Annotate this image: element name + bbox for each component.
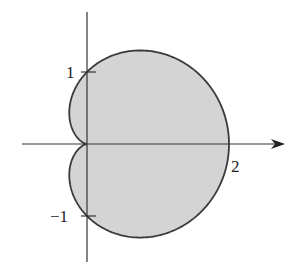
y-tick-label-neg1: −1 (50, 207, 68, 226)
y-tick-label-1: 1 (66, 63, 75, 82)
chart-canvas: 1 −1 2 (0, 0, 305, 266)
cardioid-figure: 1 −1 2 (0, 0, 305, 266)
x-tick-label-2: 2 (231, 157, 240, 176)
